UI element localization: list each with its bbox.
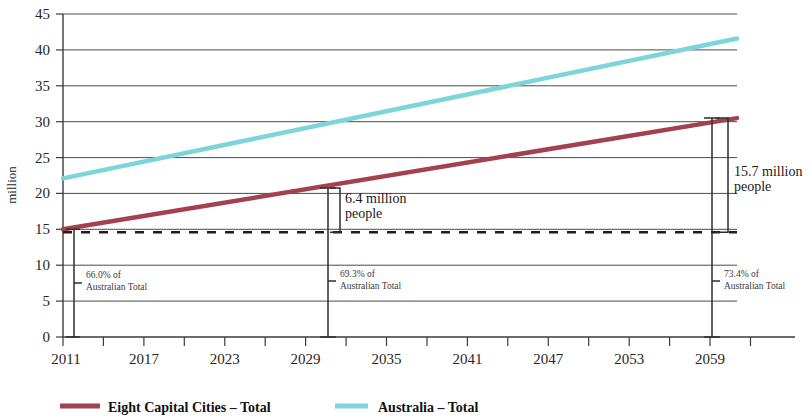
y-tick-label-15: 15 — [35, 221, 50, 237]
x-tick-label-2023: 2023 — [210, 351, 240, 367]
annotation-left-line2: Australian Total — [86, 282, 148, 292]
annotation-middle-pct-line2: Australian Total — [340, 281, 402, 291]
x-tick-label-2017: 2017 — [129, 351, 160, 367]
axes — [63, 14, 795, 337]
y-tick-label-30: 30 — [35, 114, 50, 130]
x-tick-label-2047: 2047 — [533, 351, 564, 367]
series-line-eight-capital-cities-total — [63, 118, 737, 229]
y-axis-title: million — [4, 166, 19, 204]
annotation-left-line1: 66.0% of — [86, 270, 122, 280]
x-tick-label-2053: 2053 — [614, 351, 644, 367]
x-tick-label-2059: 2059 — [695, 351, 725, 367]
legend-label-eight-capital-cities: Eight Capital Cities – Total — [108, 400, 271, 415]
annotation-middle-pct-line1: 69.3% of — [340, 269, 376, 279]
y-tick-label-45: 45 — [35, 6, 50, 22]
annotation-middle-gap-line1: 6.4 million — [345, 191, 406, 206]
legend-label-australia: Australia – Total — [378, 400, 478, 415]
y-tick-marks — [56, 14, 63, 337]
annotation-middle: 6.4 million people 69.3% of Australian T… — [320, 188, 406, 337]
annotation-right-pct-line2: Australian Total — [724, 281, 786, 291]
y-tick-label-0: 0 — [43, 329, 51, 345]
y-tick-label-35: 35 — [35, 78, 50, 94]
y-tick-labels: 45 40 35 30 25 20 15 10 5 0 — [35, 6, 50, 345]
x-tick-label-2035: 2035 — [372, 351, 402, 367]
chart-legend: Eight Capital Cities – Total Australia –… — [60, 400, 478, 415]
annotation-right-gap-line1: 15.7 million — [734, 164, 802, 179]
annotation-right: 15.7 million people 73.4% of Australian … — [704, 118, 802, 337]
chart-canvas: 45 40 35 30 25 20 15 10 5 0 million — [0, 0, 812, 420]
annotation-left: 66.0% of Australian Total — [66, 229, 148, 337]
y-tick-label-40: 40 — [35, 42, 50, 58]
annotation-middle-gap-line2: people — [345, 206, 382, 221]
x-tick-marks — [63, 337, 751, 346]
y-tick-label-5: 5 — [43, 293, 51, 309]
x-tick-label-2041: 2041 — [452, 351, 482, 367]
annotation-right-gap-line2: people — [734, 179, 771, 194]
x-tick-label-2011: 2011 — [51, 351, 80, 367]
y-tick-label-25: 25 — [35, 150, 50, 166]
annotation-right-pct-line1: 73.4% of — [724, 269, 760, 279]
y-tick-label-10: 10 — [35, 257, 50, 273]
x-tick-labels: 2011 2017 2023 2029 2035 2041 2047 2053 … — [51, 351, 725, 367]
x-tick-label-2029: 2029 — [291, 351, 321, 367]
population-projection-chart: 45 40 35 30 25 20 15 10 5 0 million — [0, 0, 812, 420]
y-tick-label-20: 20 — [35, 185, 50, 201]
